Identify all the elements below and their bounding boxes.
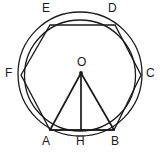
label-A: A xyxy=(42,135,50,147)
center-point-O xyxy=(79,71,83,75)
label-H: H xyxy=(76,135,85,147)
label-C: C xyxy=(146,67,155,79)
geometry-canvas xyxy=(0,0,162,156)
segment-OA xyxy=(50,73,81,130)
segment-OB xyxy=(81,73,114,130)
label-F: F xyxy=(5,67,12,79)
geometry-figure: O A H B C D E F xyxy=(0,0,162,156)
label-O: O xyxy=(77,56,86,68)
label-D: D xyxy=(108,2,117,14)
label-B: B xyxy=(111,135,119,147)
label-E: E xyxy=(42,2,50,14)
